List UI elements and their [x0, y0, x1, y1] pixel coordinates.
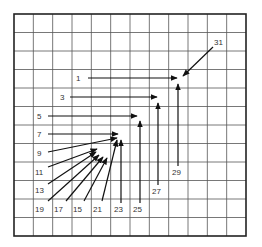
arrow-label: 27 [152, 187, 161, 196]
arrow-23: 23 [114, 140, 123, 214]
arrow-label: 15 [73, 205, 82, 214]
arrow-label: 3 [60, 93, 65, 102]
arrow-label: 25 [133, 205, 142, 214]
arrow-9: 9 [37, 138, 117, 158]
arrow-label: 19 [35, 205, 44, 214]
arrow-29: 29 [172, 84, 181, 177]
arrow-27: 27 [152, 103, 161, 196]
arrow-label: 31 [214, 38, 223, 47]
arrow-label: 13 [35, 186, 44, 195]
arrow-31: 31 [183, 38, 223, 76]
arrow-line [102, 140, 117, 201]
arrow-7: 7 [37, 130, 118, 139]
arrow-3: 3 [60, 93, 157, 102]
arrow-label: 9 [37, 149, 42, 158]
arrow-19: 19 [35, 155, 99, 214]
arrow-label: 29 [172, 168, 181, 177]
arrow-label: 21 [93, 205, 102, 214]
arrow-25: 25 [133, 121, 142, 214]
arrows: 135791113191715212325272931 [35, 38, 223, 214]
arrow-label: 23 [114, 205, 123, 214]
arrow-grid-diagram: 135791113191715212325272931 [0, 0, 262, 247]
arrow-11: 11 [35, 149, 97, 177]
arrow-label: 5 [37, 112, 42, 121]
arrow-line [48, 138, 117, 152]
arrow-13: 13 [35, 152, 96, 195]
arrow-line [48, 149, 97, 167]
arrow-label: 7 [37, 130, 42, 139]
grid [14, 14, 246, 236]
arrow-label: 11 [35, 168, 44, 177]
arrow-label: 1 [76, 74, 81, 83]
arrow-label: 17 [54, 205, 63, 214]
arrow-5: 5 [37, 112, 137, 121]
